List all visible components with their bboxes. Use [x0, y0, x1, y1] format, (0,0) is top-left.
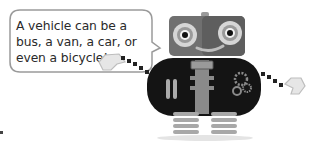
right-arm-icon: [261, 72, 305, 94]
robot-body-icon: [147, 58, 261, 116]
robot-illustration: [95, 0, 320, 143]
bullet-dot: [0, 131, 3, 134]
robot-head-icon: [169, 16, 245, 56]
left-arm-icon: [99, 54, 149, 74]
robot-icon: [95, 0, 320, 143]
